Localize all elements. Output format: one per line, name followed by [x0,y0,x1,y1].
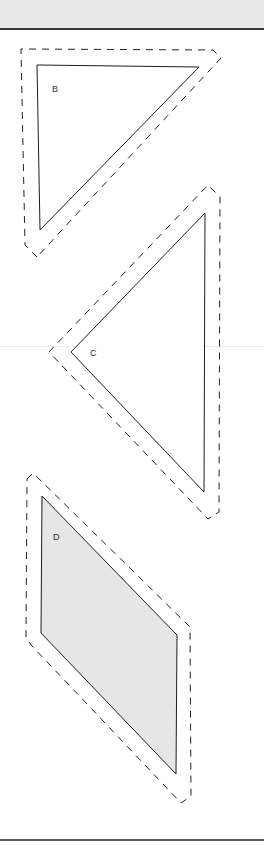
shape-b: B [21,49,221,257]
shape-b-label: B [52,84,58,94]
shape-d-label: D [53,532,60,542]
shape-c: C [49,185,220,519]
shape-d: D [26,473,191,803]
shape-c-label: C [90,348,97,358]
shape-d-outline [41,496,177,774]
cutout-templates: B C D [0,0,264,859]
shape-b-outline [37,65,199,230]
bottom-rule [0,839,264,841]
